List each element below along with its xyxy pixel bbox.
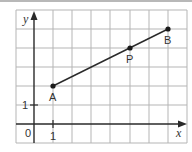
point-a-label: A	[49, 91, 57, 103]
origin-label: 0	[25, 127, 31, 139]
point-a	[50, 83, 55, 88]
y-axis-label: y	[22, 12, 29, 26]
x-axis-label: x	[175, 126, 182, 140]
point-b-label: B	[164, 34, 171, 46]
grid	[16, 10, 187, 143]
point-b	[165, 26, 170, 31]
y-axis-arrow-icon	[31, 11, 38, 20]
coordinate-plane: A P B y x 0 1 1	[0, 0, 192, 152]
point-p-label: P	[126, 53, 133, 65]
point-p	[127, 45, 132, 50]
y-tick-label-1: 1	[22, 99, 28, 111]
x-tick-label-1: 1	[50, 130, 56, 142]
